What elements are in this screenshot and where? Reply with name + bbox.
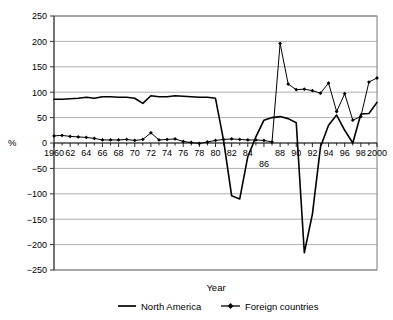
legend-label-north-america: North America	[141, 301, 202, 312]
y-tick-label: −100	[27, 189, 47, 199]
x-tick-label: 66	[97, 148, 107, 158]
legend-swatch-diamond-icon	[228, 303, 234, 309]
x-tick-label: 96	[340, 148, 350, 158]
y-tick-label: 0	[42, 138, 47, 148]
y-axis-title: %	[8, 137, 17, 148]
x-tick-label: 86	[259, 159, 269, 169]
x-tick-label: 94	[324, 148, 334, 158]
chart-legend: North America Foreign countries	[118, 301, 319, 312]
x-axis-title: Year	[206, 282, 225, 293]
x-tick-label: 1960	[44, 148, 64, 158]
legend-item-north-america: North America	[118, 301, 202, 312]
y-tick-label: 50	[37, 113, 47, 123]
x-tick-label: 2000	[367, 148, 387, 158]
x-tick-label: 76	[178, 148, 188, 158]
x-tick-label: 80	[210, 148, 220, 158]
x-tick-label: 68	[114, 148, 124, 158]
x-tick-label: 64	[81, 148, 91, 158]
x-tick-label: 90	[291, 148, 301, 158]
x-tick-label: 70	[130, 148, 140, 158]
chart-figure: 250200150100500−50−100−150−200−250 19606…	[0, 0, 393, 320]
x-tick-label: 98	[356, 148, 366, 158]
line-chart: 250200150100500−50−100−150−200−250 19606…	[0, 0, 393, 320]
y-tick-label: 250	[32, 11, 47, 21]
x-tick-label: 88	[275, 148, 285, 158]
x-tick-label: 78	[194, 148, 204, 158]
legend-label-foreign-countries: Foreign countries	[245, 301, 319, 312]
y-tick-label: −200	[27, 240, 47, 250]
x-tick-label: 92	[307, 148, 317, 158]
x-tick-label: 62	[65, 148, 75, 158]
y-tick-label: 150	[32, 62, 47, 72]
y-tick-label: 100	[32, 88, 47, 98]
y-tick-label: −50	[32, 164, 47, 174]
y-axis: 250200150100500−50−100−150−200−250	[27, 11, 54, 275]
x-tick-label: 82	[227, 148, 237, 158]
y-tick-label: 200	[32, 37, 47, 47]
y-tick-label: −150	[27, 215, 47, 225]
y-tick-label: −250	[27, 265, 47, 275]
x-tick-label: 74	[162, 148, 172, 158]
x-tick-label: 72	[146, 148, 156, 158]
legend-item-foreign-countries: Foreign countries	[221, 301, 319, 312]
